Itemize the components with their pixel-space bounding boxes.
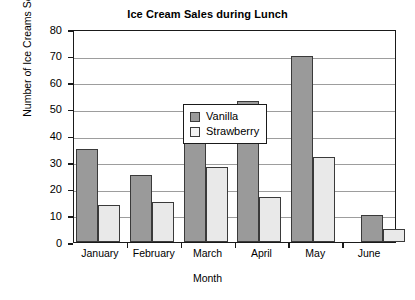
y-tick-label: 0: [28, 238, 62, 249]
y-tick-mark: [68, 243, 73, 245]
legend-label-strawberry: Strawberry: [206, 126, 259, 137]
bar-may-vanilla: [291, 56, 313, 242]
legend-label-vanilla: Vanilla: [206, 111, 238, 122]
y-tick-label: 50: [28, 104, 62, 115]
bar-may-strawberry: [313, 157, 335, 242]
bar-march-vanilla: [184, 133, 206, 242]
legend-item-strawberry: Strawberry: [190, 124, 259, 139]
bar-january-strawberry: [98, 205, 120, 242]
bar-february-vanilla: [130, 175, 152, 242]
legend-swatch-strawberry: [190, 127, 200, 137]
bar-april-strawberry: [259, 197, 281, 242]
gridline: [74, 191, 395, 192]
y-tick-label: 10: [28, 211, 62, 222]
x-tick-label: March: [181, 247, 235, 259]
y-axis-title: Number of Ice Creams Sold: [21, 0, 33, 137]
bar-march-strawberry: [206, 167, 228, 242]
x-tick-label: April: [235, 247, 289, 259]
legend-swatch-vanilla: [190, 112, 200, 122]
gridline: [74, 58, 395, 59]
y-tick-label: 40: [28, 131, 62, 142]
gridline: [74, 164, 395, 165]
chart-title: Ice Cream Sales during Lunch: [0, 8, 415, 20]
x-axis-title: Month: [0, 272, 415, 284]
gridline: [74, 84, 395, 85]
gridline: [74, 217, 395, 218]
y-tick-label: 20: [28, 184, 62, 195]
bar-january-vanilla: [76, 149, 98, 242]
y-tick-label: 70: [28, 51, 62, 62]
bar-february-strawberry: [152, 202, 174, 242]
y-tick-label: 30: [28, 158, 62, 169]
bar-june-vanilla: [361, 215, 383, 242]
chart-legend: Vanilla Strawberry: [183, 104, 267, 144]
x-tick-label: January: [73, 247, 127, 259]
bar-june-strawberry: [383, 229, 405, 242]
legend-item-vanilla: Vanilla: [190, 109, 259, 124]
y-tick-label: 80: [28, 25, 62, 36]
plot-area: Vanilla Strawberry: [73, 30, 396, 243]
x-tick-label: June: [342, 247, 396, 259]
y-tick-label: 60: [28, 78, 62, 89]
x-tick-label: February: [127, 247, 181, 259]
x-tick-label: May: [288, 247, 342, 259]
bar-chart-figure: Ice Cream Sales during Lunch Number of I…: [0, 0, 415, 300]
